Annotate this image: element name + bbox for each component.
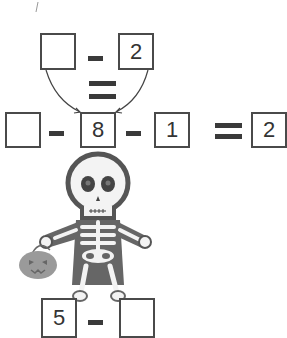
bottom-minus-sign [88,320,103,325]
bottom-left-box: 5 [41,298,77,338]
bottom-answer-box[interactable] [119,298,155,338]
